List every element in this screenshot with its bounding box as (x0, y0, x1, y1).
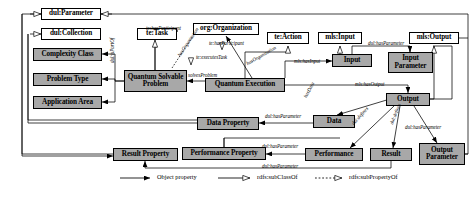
node-dul_collection: dul:Collection (41, 28, 101, 40)
node-application_area: Application Area (33, 96, 102, 109)
edge-label-te_hasparticipant_1: te:hasParticipant (146, 25, 181, 31)
edge-label-dul_ispartof: dul:isPartOf (109, 38, 115, 63)
edge-label-mls_hasinput: mls:hasInput (294, 58, 320, 64)
edge-label-dul_hasparameter_out: dul:hasParameter (405, 124, 441, 130)
edge-label-dul_hasparameter_perf: dul:hasParameter (262, 143, 298, 149)
node-result: Result (370, 148, 412, 161)
node-problem_type: Problem Type (33, 73, 102, 86)
node-mls_output: mls:Output (409, 32, 459, 44)
node-te_action: te:Action (267, 32, 309, 44)
ontology-diagram: dul:Parameterdul:Collectionte:Taskorg:Or… (0, 0, 476, 198)
edge-label-dul_hasparameter_input: dul:hasParameter (368, 40, 404, 46)
edge-label-solvesproblem: solvesProblem (188, 72, 217, 78)
legend-label-rdfs-subclassof: rdfs:subClassOf (257, 173, 298, 180)
node-org_organization: org:Organization (193, 23, 259, 35)
node-performance_property: Performance Property (182, 147, 266, 160)
node-dul_parameter: dul:Parameter (41, 8, 101, 20)
node-data_property: Data Property (197, 117, 259, 130)
node-output: Output (386, 93, 430, 106)
node-input: Input (332, 54, 372, 67)
node-mls_input: mls:Input (318, 32, 362, 44)
edge-label-dul_hasparameter_res: dul:hasParameter (262, 163, 298, 169)
node-output_parameter: Output Parameter (419, 143, 465, 165)
node-performance: Performance (305, 148, 363, 161)
node-result_property: Result Property (113, 148, 178, 161)
node-input_parameter: Input Parameter (388, 52, 433, 73)
legend-label-object-property: Object property (157, 173, 197, 180)
edge-label-dul_hasparameter_data: dul:hasParameter (265, 113, 301, 119)
edge-label-te_executestask: te:executesTask (196, 54, 227, 60)
edge-label-mls_hasoutput: mls:hasOutput (355, 81, 384, 87)
edge-label-te_hasparticipant_2: te:hasParticipant (209, 40, 244, 46)
legend-label-rdfs-subpropertyof: rdfs:subPropertyOf (349, 173, 398, 180)
node-complexity_class: Complexity Class (33, 48, 102, 61)
node-quantum_solvable_problem: Quantum Solvable Problem (124, 70, 187, 92)
node-quantum_execution: Quantum Execution (205, 78, 285, 92)
